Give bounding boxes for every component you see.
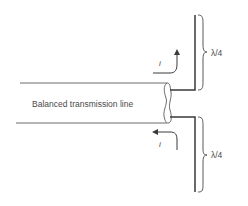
transmission-line-label: Balanced transmission line bbox=[32, 99, 133, 109]
brace-top-icon bbox=[198, 15, 207, 90]
current-label-bottom: i bbox=[159, 140, 161, 149]
length-label-top: λ/4 bbox=[211, 48, 223, 58]
length-label-bottom: λ/4 bbox=[211, 150, 223, 160]
current-label-top: i bbox=[159, 59, 161, 68]
dipole-arm-top bbox=[170, 15, 195, 90]
current-arrow-top-icon bbox=[153, 52, 177, 73]
dipole-arm-bottom bbox=[170, 117, 195, 192]
dipole-diagram: Balanced transmission line i i λ/4 λ/4 bbox=[0, 0, 248, 206]
brace-bottom-icon bbox=[198, 117, 207, 192]
